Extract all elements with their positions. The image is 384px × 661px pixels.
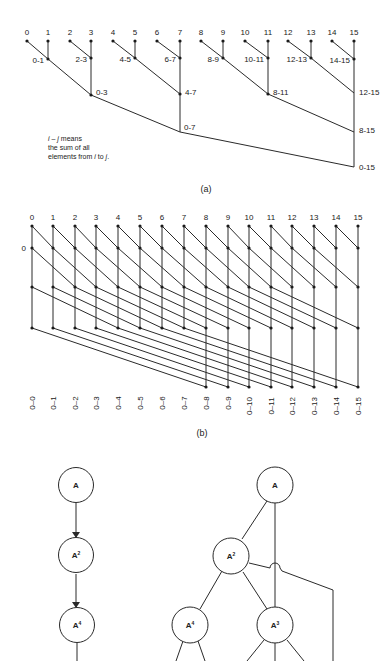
input-label: 7 <box>178 28 183 37</box>
sum-label: 12-13 <box>287 55 308 64</box>
diagram-a-input-labels: 0 1 2 3 4 5 6 7 8 9 10 11 12 13 14 15 <box>25 28 359 37</box>
output-label: 0–11 <box>267 397 276 415</box>
input-label: 2 <box>68 28 73 37</box>
input-label: 6 <box>155 28 160 37</box>
input-label: 7 <box>182 213 187 222</box>
input-label: 1 <box>51 213 56 222</box>
node-a-squared: A2 <box>213 538 249 574</box>
output-label: 0–0 <box>28 396 37 410</box>
output-label: 0–3 <box>92 396 101 410</box>
output-label: 0–8 <box>202 396 211 410</box>
input-label: 8 <box>199 28 204 37</box>
sum-label: 0-3 <box>96 88 108 97</box>
diagram-a: 0 1 2 3 4 5 6 7 8 9 10 11 12 13 14 15 <box>25 28 380 194</box>
output-label: 0–1 <box>49 396 58 410</box>
diagram-b-output-labels: 0–0 0–1 0–2 0–3 0–4 0–5 0–6 0–7 0–8 0–9 … <box>28 396 363 415</box>
output-label: 0–4 <box>114 396 123 410</box>
sum-label: 8-9 <box>207 55 219 64</box>
input-label: 11 <box>264 28 273 37</box>
svg-text:i – j means: i – j means <box>48 135 82 143</box>
diagram-b-nodes <box>30 224 359 388</box>
node-a-squared: A2 <box>59 538 94 573</box>
input-label: 0 <box>25 28 30 37</box>
sum-label: 12-15 <box>359 88 380 97</box>
diagram-b-input-labels: 0 1 2 3 4 5 6 7 8 9 10 11 12 13 14 15 <box>30 213 363 222</box>
node-a-root: A <box>257 467 293 503</box>
diagram-b-edges <box>32 226 358 387</box>
output-label: 0–15 <box>354 397 363 415</box>
output-label: 0–12 <box>288 397 297 415</box>
sum-label: 0-1 <box>32 56 44 65</box>
sum-label: 4-7 <box>185 88 197 97</box>
sum-label: 4-5 <box>119 55 131 64</box>
input-label: 4 <box>116 213 121 222</box>
node-a: A <box>59 468 94 503</box>
caption-a: (a) <box>201 184 212 194</box>
output-label: 0–13 <box>310 397 319 415</box>
sum-label: 8-11 <box>273 88 289 97</box>
input-label: 15 <box>354 213 363 222</box>
input-label: 3 <box>94 213 99 222</box>
diagram-b: 0 1 2 3 4 5 6 7 8 9 10 11 12 13 14 15 0 <box>22 213 363 438</box>
svg-text:A: A <box>73 481 79 490</box>
node-a-cubed: A3 <box>257 607 293 643</box>
input-label: 8 <box>204 213 209 222</box>
input-label: 12 <box>284 28 293 37</box>
output-label: 0–5 <box>136 396 145 410</box>
input-label: 0 <box>30 213 35 222</box>
output-label: 0–7 <box>180 396 189 410</box>
sum-label: 2-3 <box>75 55 87 64</box>
input-label: 13 <box>310 213 319 222</box>
input-label: 14 <box>328 28 337 37</box>
diagram-a-note: i – j means the sum of all elements from… <box>48 135 109 161</box>
input-label: 14 <box>332 213 341 222</box>
svg-text:A: A <box>272 481 278 490</box>
parallel-prefix-figure: 0 1 2 3 4 5 6 7 8 9 10 11 12 13 14 15 <box>0 0 384 661</box>
diagram-c: A A2 A4 <box>59 467 334 661</box>
input-label: 6 <box>160 213 165 222</box>
output-label: 0–14 <box>332 397 341 415</box>
input-label: 9 <box>226 213 231 222</box>
output-label: 0–6 <box>158 396 167 410</box>
output-label: 0–10 <box>245 397 254 415</box>
output-label: 0–9 <box>224 396 233 410</box>
input-label: 10 <box>241 28 250 37</box>
input-label: 3 <box>89 28 94 37</box>
sum-label: 14-15 <box>330 56 351 65</box>
right-tree: A A2 A4 A3 <box>172 467 333 661</box>
input-label: 4 <box>111 28 116 37</box>
input-label: 12 <box>288 213 297 222</box>
input-label: 10 <box>245 213 254 222</box>
sum-label: 0-15 <box>359 163 376 172</box>
sum-label: 10-11 <box>244 55 264 64</box>
input-label: 13 <box>307 28 316 37</box>
node-a-fourth: A4 <box>60 608 95 643</box>
sum-label: 0-7 <box>184 123 196 132</box>
side-label: 0 <box>22 244 27 253</box>
input-label: 5 <box>133 28 138 37</box>
left-chain: A A2 A4 <box>59 468 95 661</box>
sum-label: 6-7 <box>164 55 176 64</box>
input-label: 5 <box>138 213 143 222</box>
input-label: 9 <box>221 28 226 37</box>
node-a-fourth: A4 <box>172 607 208 643</box>
input-label: 2 <box>73 213 78 222</box>
caption-b: (b) <box>197 428 208 438</box>
output-label: 0–2 <box>71 396 80 410</box>
svg-text:elements from i to j.: elements from i to j. <box>48 153 109 161</box>
sum-label: 8-15 <box>359 126 376 135</box>
input-label: 1 <box>46 28 51 37</box>
svg-text:the sum of all: the sum of all <box>48 144 90 151</box>
input-label: 11 <box>267 213 276 222</box>
input-label: 15 <box>350 28 359 37</box>
